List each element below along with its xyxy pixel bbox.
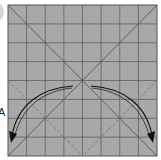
origami-diagram: A — [0, 0, 161, 160]
crease-pattern — [0, 0, 161, 160]
